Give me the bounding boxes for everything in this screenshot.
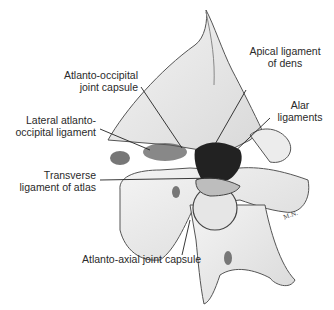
label-line: joint capsule: [48, 81, 138, 93]
label-line: Atlanto-occipital: [48, 69, 138, 81]
occipital-condyle-right: [250, 129, 291, 162]
label-lateral-atlanto-occipital-ligament: Lateral atlanto- occipital ligament: [0, 114, 96, 138]
label-line: Apical ligament: [240, 45, 330, 57]
label-line: Alar: [272, 99, 328, 111]
label-atlanto-axial-joint-capsule: Atlanto-axial joint capsule: [82, 253, 201, 265]
label-line: of dens: [240, 57, 330, 69]
label-apical-ligament-of-dens: Apical ligament of dens: [240, 45, 330, 69]
label-line: Lateral atlanto-: [0, 114, 96, 126]
label-alar-ligaments: Alar ligaments: [272, 99, 328, 123]
label-line: occipital ligament: [0, 126, 96, 138]
label-line: ligaments: [272, 111, 328, 123]
label-line: Transverse: [0, 169, 96, 181]
label-transverse-ligament-of-atlas: Transverse ligament of atlas: [0, 169, 96, 193]
label-atlanto-occipital-joint-capsule: Atlanto-occipital joint capsule: [48, 69, 138, 93]
label-line: Atlanto-axial joint capsule: [82, 253, 201, 265]
label-line: ligament of atlas: [0, 181, 96, 193]
